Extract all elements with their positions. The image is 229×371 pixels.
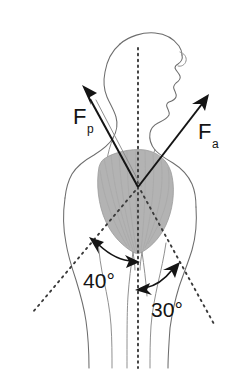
posterior-force-label: F <box>73 104 86 129</box>
angle-40-arrow-left <box>89 237 104 254</box>
angle-30-arrow-right <box>163 262 180 278</box>
anterior-force-label: F <box>198 119 211 144</box>
head-crown-contour <box>120 33 182 55</box>
right-arm-outer-contour <box>168 207 196 368</box>
left-arm-inner-contour <box>98 240 112 368</box>
angle-label-30: 30° <box>151 298 183 321</box>
posterior-force-label-subscript: p <box>87 122 94 136</box>
anterior-force-label-subscript: a <box>212 137 219 151</box>
anterior-force-arrowhead <box>192 94 209 111</box>
torso-left-midline <box>127 252 133 368</box>
figure-canvas: F p F a 40° 30° <box>0 0 229 371</box>
angle-label-40: 40° <box>83 269 115 292</box>
head-profile <box>104 33 186 150</box>
posterior-force-arrowhead <box>82 85 97 105</box>
force-diagram-figure: F p F a 40° 30° <box>0 0 229 371</box>
angle-labels: 40° 30° <box>83 269 183 321</box>
angle-indicator-30 <box>135 262 180 295</box>
deltoid-muscle <box>98 150 174 270</box>
head-back-contour <box>104 44 120 138</box>
